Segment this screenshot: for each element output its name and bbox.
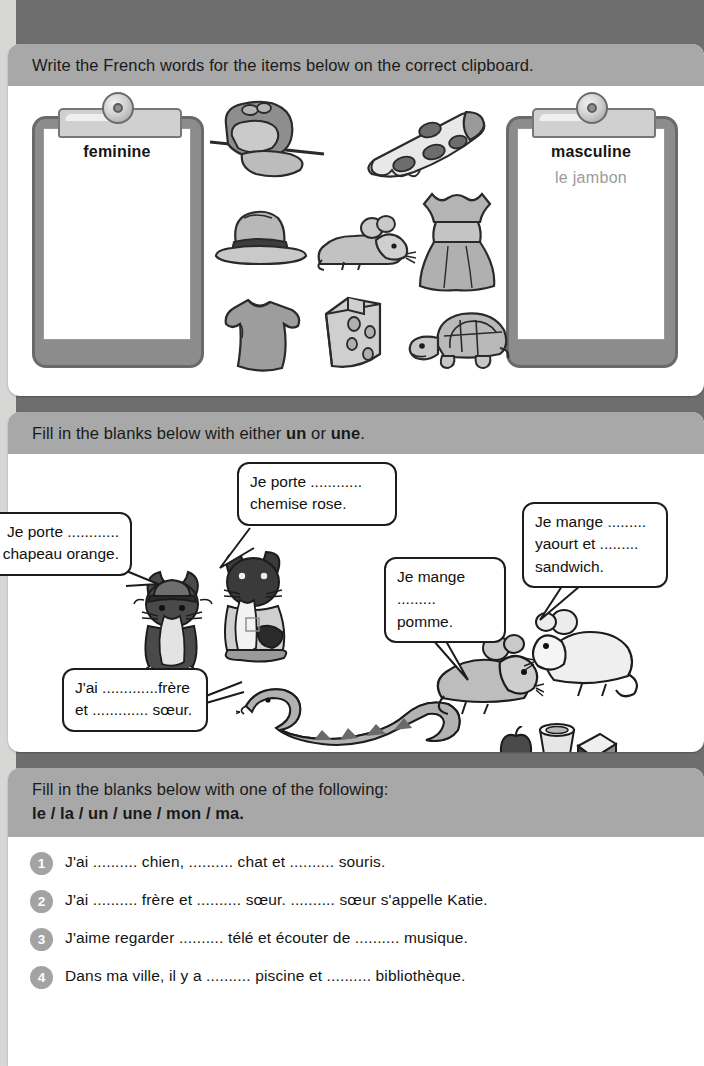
instruction-un-une-part-0: Fill in the blanks below with either	[32, 424, 286, 442]
picture-tortoise	[404, 298, 514, 374]
question-row: 3 J'aime regarder .......... télé et éco…	[30, 913, 704, 951]
instruction-articles-line-2: le / la / un / une / mon / ma.	[32, 803, 704, 825]
picture-tshirt	[220, 294, 310, 376]
speech-bubble-chemise-line-1: chemise rose.	[250, 493, 384, 515]
question-text[interactable]: J'ai .......... chien, .......... chat e…	[65, 851, 385, 873]
speech-bubble-chapeau-line-1: chapeau orange.	[0, 543, 119, 565]
speech-bubble-chemise-line-0: Je porte ............	[250, 471, 384, 493]
speech-bubble-pomme: Je mange ......... pomme.	[384, 557, 506, 643]
instruction-un-une-part-1: un	[286, 424, 306, 442]
instruction-sorting: Write the French words for the items bel…	[8, 44, 704, 86]
articles-activity-body: 1 J'ai .......... chien, .......... chat…	[8, 837, 704, 1047]
instruction-articles-line-1: Fill in the blanks below with one of the…	[32, 779, 704, 801]
question-row: 1 J'ai .......... chien, .......... chat…	[30, 837, 704, 875]
question-text[interactable]: Dans ma ville, il y a .......... piscine…	[65, 965, 465, 987]
question-row: 2 J'ai .......... frère et .......... sœ…	[30, 875, 704, 913]
clipboard-title-masculine: masculine	[518, 143, 664, 161]
question-row: 4 Dans ma ville, il y a .......... pisci…	[30, 951, 704, 989]
speech-bubble-chapeau-line-0: Je porte ............	[0, 521, 119, 543]
speech-bubble-pomme-line-1: ......... pomme.	[397, 588, 493, 633]
question-text[interactable]: J'aime regarder .......... télé et écout…	[65, 927, 468, 949]
prop-yogurt-pot	[536, 722, 578, 752]
sorting-activity-body: feminine masculine le jambon	[8, 86, 704, 382]
speech-bubble-yaourt: Je mange ......... yaourt et ......... s…	[522, 502, 668, 588]
prop-apple	[498, 726, 534, 752]
question-number-badge: 1	[30, 852, 53, 875]
speech-bubble-frere-line-1: et ............. sœur.	[75, 699, 195, 721]
clipboard-paper-masculine[interactable]: masculine le jambon	[517, 128, 665, 340]
clipboard-clip-knob-icon	[102, 92, 134, 124]
section-articles-activity: Fill in the blanks below with one of the…	[8, 768, 704, 1066]
picture-ham	[208, 96, 326, 182]
picture-cheese	[318, 292, 392, 376]
instruction-un-une: Fill in the blanks below with either un …	[8, 412, 704, 454]
instruction-un-une-part-4: .	[360, 424, 365, 442]
bubble-tail-yaourt	[532, 580, 612, 640]
section-sorting-activity: Write the French words for the items bel…	[8, 44, 704, 396]
speech-bubble-chapeau: Je porte ............ chapeau orange.	[0, 512, 132, 576]
picture-dress	[414, 188, 500, 294]
instruction-sorting-text: Write the French words for the items bel…	[32, 56, 534, 74]
speech-bubble-frere: J'ai .............frère et .............…	[62, 668, 208, 732]
worksheet-page: Write the French words for the items bel…	[0, 0, 704, 1066]
speech-bubble-yaourt-line-1: yaourt et .........	[535, 533, 655, 555]
speech-bubble-yaourt-line-2: sandwich.	[535, 556, 655, 578]
instruction-un-une-part-3: une	[331, 424, 361, 442]
clipboard-answer-masculine: le jambon	[518, 169, 664, 187]
speech-bubble-yaourt-line-0: Je mange .........	[535, 511, 655, 533]
question-text[interactable]: J'ai .......... frère et .......... sœur…	[65, 889, 488, 911]
prop-sandwich	[574, 732, 620, 752]
clipboard-title-feminine: feminine	[44, 143, 190, 161]
picture-mouse	[314, 206, 418, 272]
speech-bubble-pomme-line-0: Je mange	[397, 566, 493, 588]
speech-bubble-chemise: Je porte ............ chemise rose.	[237, 462, 397, 526]
clipboard-clip-knob-icon	[576, 92, 608, 124]
instruction-un-une-part-2: or	[306, 424, 330, 442]
clipboard-feminine[interactable]: feminine	[32, 100, 204, 368]
clipboard-masculine[interactable]: masculine le jambon	[506, 100, 678, 368]
instruction-articles: Fill in the blanks below with one of the…	[8, 768, 704, 837]
question-number-badge: 3	[30, 928, 53, 951]
question-number-badge: 2	[30, 890, 53, 913]
picture-hat	[210, 204, 310, 268]
question-number-badge: 4	[30, 966, 53, 989]
picture-pizza	[358, 108, 488, 190]
clipboard-paper-feminine[interactable]: feminine	[43, 128, 191, 340]
speech-bubble-frere-line-0: J'ai .............frère	[75, 677, 195, 699]
